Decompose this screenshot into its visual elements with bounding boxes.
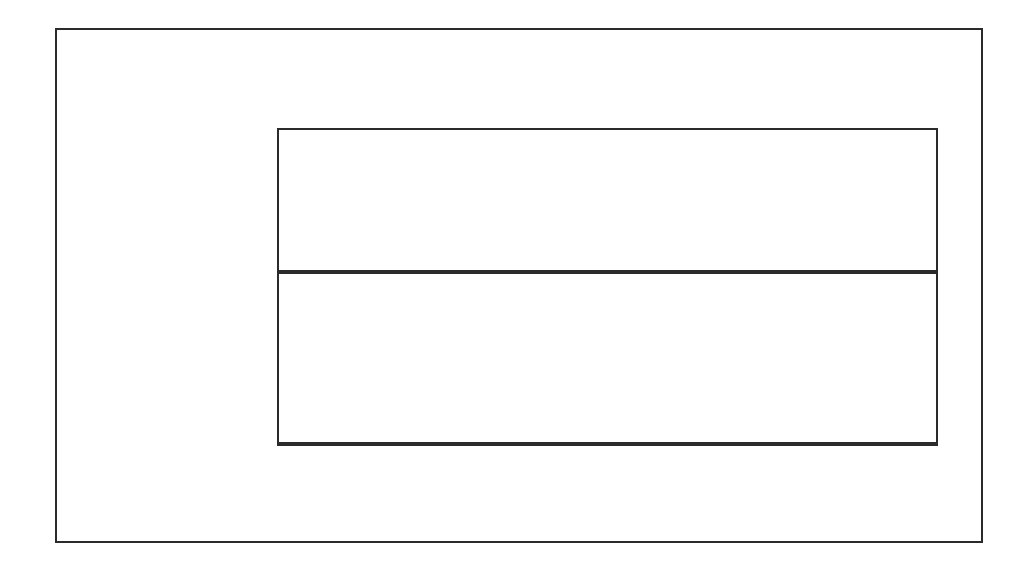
bar-value-less-than-6-months xyxy=(277,322,283,344)
bar-value-business-unit-only xyxy=(277,174,283,196)
category-label-corporate-level-only xyxy=(51,202,281,224)
bar-value-6-months-2-years xyxy=(277,350,283,372)
chart-plot-area xyxy=(0,0,1033,580)
category-label-2-5-years xyxy=(51,378,281,400)
category-label-business-unit-only xyxy=(51,174,281,196)
figure-container xyxy=(0,0,1033,580)
bar-row xyxy=(277,378,938,400)
bar-value-both-bu-and-corporate xyxy=(277,230,283,252)
bar-row xyxy=(277,350,938,372)
bar-row xyxy=(277,202,938,224)
category-label-6-months-2-years xyxy=(51,350,281,372)
bar-row xyxy=(277,174,938,196)
bar-row xyxy=(277,230,938,252)
category-label-more-than-5-years xyxy=(51,406,281,428)
x-axis-line xyxy=(277,444,938,446)
category-label-less-than-6-months xyxy=(51,322,281,344)
category-label-both-bu-and-corporate xyxy=(51,230,281,252)
bar-row xyxy=(277,322,938,344)
bar-row xyxy=(277,406,938,428)
bar-value-corporate-level-only xyxy=(277,202,283,224)
bar-value-2-5-years xyxy=(277,378,283,400)
bar-value-more-than-5-years xyxy=(277,406,283,428)
